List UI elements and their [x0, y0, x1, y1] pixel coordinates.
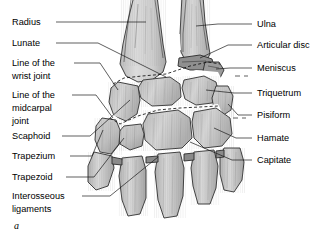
label-hamate: Hamate [257, 133, 289, 143]
label-trapezium: Trapezium [12, 151, 55, 161]
trapezoid-bone [118, 124, 145, 151]
label-pisiform: Pisiform [257, 110, 291, 120]
label-midcarpal-line-1: Line of the [12, 90, 55, 100]
metacarpal-1 [88, 152, 115, 191]
trapezium-bone [94, 118, 122, 155]
label-scaphoid: Scaphoid [12, 131, 50, 141]
label-interosseous-line-2: ligaments [12, 204, 52, 214]
label-interosseous-line-1: Interosseous [12, 191, 65, 201]
label-midcarpal-line-2: midcarpal [12, 103, 52, 113]
label-meniscus: Meniscus [257, 63, 296, 73]
anatomical-figure-panel: Radius Lunate Line of the wrist joint Li… [0, 0, 328, 234]
label-lunate: Lunate [12, 38, 40, 48]
label-ulna: Ulna [257, 19, 277, 29]
radioulnar-gap [166, 34, 181, 52]
lunate-bone [138, 77, 182, 107]
panel-letter: a [14, 220, 19, 231]
radius-bone [120, 0, 166, 82]
label-articular-disc: Articular disc [257, 40, 310, 50]
wrist-anatomy-diagram: Radius Lunate Line of the wrist joint Li… [0, 0, 328, 234]
hamate-bone [192, 108, 234, 149]
label-capitate: Capitate [257, 155, 291, 165]
label-wrist-joint-line-2: wrist joint [11, 71, 51, 81]
label-radius: Radius [12, 17, 41, 27]
label-midcarpal-line-3: joint [11, 116, 29, 126]
label-triquetrum: Triquetrum [257, 88, 301, 98]
label-trapezoid: Trapezoid [12, 172, 53, 182]
capitate-bone [143, 110, 193, 151]
label-wrist-joint-line-1: Line of the [12, 58, 55, 68]
